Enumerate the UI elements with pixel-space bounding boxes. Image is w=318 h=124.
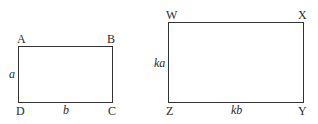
vertex-d: D [16, 105, 25, 117]
vertex-x: X [298, 9, 307, 21]
vertex-w: W [166, 9, 177, 21]
side-label-b: b [63, 104, 69, 116]
vertex-a: A [17, 33, 26, 45]
rectangle-wxyz [168, 22, 304, 103]
side-label-a: a [9, 68, 15, 80]
side-label-kb: kb [231, 104, 242, 116]
vertex-c: C [108, 105, 116, 117]
vertex-y: Y [298, 105, 307, 117]
vertex-z: Z [166, 105, 173, 117]
side-label-ka: ka [154, 57, 165, 69]
rectangle-abcd [18, 46, 113, 103]
vertex-b: B [107, 33, 115, 45]
